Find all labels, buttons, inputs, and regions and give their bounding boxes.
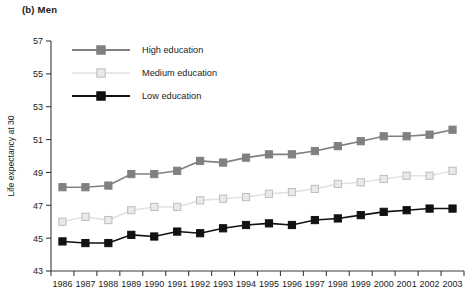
x-tick-label: 1992 (190, 279, 210, 289)
data-point-marker (197, 197, 204, 204)
y-tick-label: 51 (33, 135, 43, 145)
legend-item-2[interactable]: Low education (72, 91, 201, 101)
data-point-marker (242, 221, 249, 228)
legend-item-1[interactable]: Medium education (72, 68, 217, 78)
data-point-marker (128, 170, 135, 177)
x-tick-label: 1999 (351, 279, 371, 289)
data-point-marker (59, 238, 66, 245)
data-point-marker (311, 147, 318, 154)
chart-page: (b) Men 4345474951535557Life expectancy … (0, 0, 473, 308)
legend-marker (97, 92, 105, 100)
data-point-marker (403, 172, 410, 179)
data-point-marker (449, 126, 456, 133)
data-point-marker (426, 172, 433, 179)
y-tick-label: 45 (33, 234, 43, 244)
legend-marker (97, 69, 105, 77)
data-point-marker (357, 179, 364, 186)
data-point-marker (151, 233, 158, 240)
data-point-marker (174, 167, 181, 174)
data-point-marker (334, 215, 341, 222)
x-tick-label: 1989 (121, 279, 141, 289)
x-tick-label: 2003 (443, 279, 463, 289)
data-point-marker (197, 230, 204, 237)
data-point-marker (311, 185, 318, 192)
y-tick-label: 53 (33, 102, 43, 112)
x-tick-label: 1997 (305, 279, 325, 289)
data-point-marker (197, 157, 204, 164)
data-point-marker (219, 225, 226, 232)
x-tick-label: 1986 (52, 279, 72, 289)
x-tick-label: 1998 (328, 279, 348, 289)
data-point-marker (426, 205, 433, 212)
series-line (62, 209, 452, 244)
data-point-marker (403, 207, 410, 214)
data-point-marker (82, 239, 89, 246)
y-tick-label: 47 (33, 201, 43, 211)
data-point-marker (59, 184, 66, 191)
data-point-marker (105, 216, 112, 223)
series-high-education (59, 126, 456, 191)
data-point-marker (265, 151, 272, 158)
data-point-marker (265, 190, 272, 197)
data-point-marker (219, 159, 226, 166)
x-tick-label: 2000 (374, 279, 394, 289)
data-point-marker (426, 131, 433, 138)
data-point-marker (151, 203, 158, 210)
y-tick-label: 49 (33, 168, 43, 178)
data-point-marker (334, 180, 341, 187)
legend-label: Medium education (142, 68, 217, 78)
data-point-marker (219, 195, 226, 202)
data-point-marker (82, 213, 89, 220)
data-point-marker (59, 218, 66, 225)
data-point-marker (357, 212, 364, 219)
data-point-marker (380, 208, 387, 215)
data-point-marker (242, 193, 249, 200)
series-line (62, 130, 452, 188)
y-axis-title: Life expectancy at 30 (6, 115, 16, 196)
legend-label: High education (142, 45, 203, 55)
x-tick-label: 1988 (98, 279, 118, 289)
data-point-marker (151, 170, 158, 177)
data-point-marker (288, 221, 295, 228)
data-point-marker (334, 143, 341, 150)
data-point-marker (82, 184, 89, 191)
data-point-marker (128, 231, 135, 238)
x-tick-label: 1990 (144, 279, 164, 289)
legend-marker (97, 46, 105, 54)
data-point-marker (265, 220, 272, 227)
x-tick-label: 1995 (259, 279, 279, 289)
legend-item-0[interactable]: High education (72, 45, 203, 55)
x-tick-label: 1987 (75, 279, 95, 289)
data-point-marker (288, 189, 295, 196)
data-point-marker (128, 207, 135, 214)
x-tick-label: 1991 (167, 279, 187, 289)
x-tick-label: 1994 (236, 279, 256, 289)
data-point-marker (403, 133, 410, 140)
data-point-marker (380, 133, 387, 140)
data-point-marker (380, 175, 387, 182)
series-low-education (59, 205, 456, 247)
data-point-marker (357, 138, 364, 145)
data-point-marker (105, 239, 112, 246)
data-point-marker (288, 151, 295, 158)
legend-label: Low education (142, 91, 201, 101)
y-tick-label: 55 (33, 69, 43, 79)
line-chart: 4345474951535557Life expectancy at 30198… (0, 0, 473, 308)
x-tick-label: 1993 (213, 279, 233, 289)
data-point-marker (242, 154, 249, 161)
data-point-marker (174, 228, 181, 235)
y-tick-label: 57 (33, 36, 43, 46)
series-medium-education (59, 167, 456, 225)
x-tick-label: 2001 (397, 279, 417, 289)
data-point-marker (105, 182, 112, 189)
x-tick-label: 2002 (420, 279, 440, 289)
data-point-marker (311, 216, 318, 223)
x-tick-label: 1996 (282, 279, 302, 289)
data-point-marker (174, 203, 181, 210)
y-tick-label: 43 (33, 266, 43, 276)
data-point-marker (449, 167, 456, 174)
data-point-marker (449, 205, 456, 212)
